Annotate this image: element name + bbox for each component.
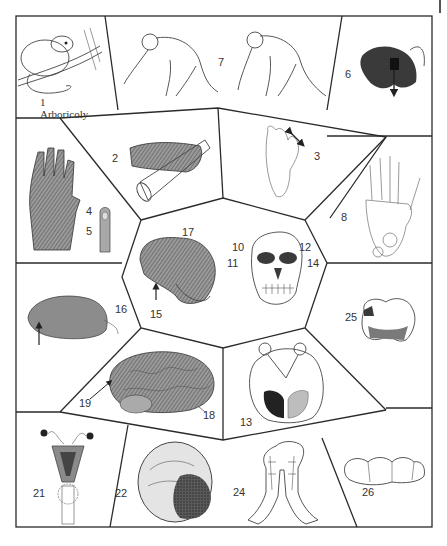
- panel-15-label: 15: [150, 308, 162, 320]
- divider-7-6: [327, 16, 342, 110]
- panel-22-label: 22: [115, 487, 127, 499]
- panel-6: 6: [345, 46, 424, 93]
- panel-21: 21: [33, 430, 94, 525]
- divider-24-26: [322, 438, 357, 527]
- panel-4-5: 4 5: [30, 148, 110, 252]
- divider-2-3: [218, 108, 223, 198]
- ape-right-illustration: [238, 32, 326, 96]
- ape-hand-illustration: [30, 148, 80, 250]
- fingertip-illustration: [100, 208, 110, 253]
- figure-mosaic: 1 Arboricoly 7 6 2: [0, 0, 447, 546]
- panel-16: 16: [28, 296, 127, 345]
- panel-24-label: 24: [233, 486, 245, 498]
- panel-18-19: 19 18: [79, 352, 215, 421]
- panel-10-label: 10: [232, 241, 244, 253]
- panel-16-label: 16: [115, 303, 127, 315]
- frontal-skull-illustration: [251, 232, 302, 304]
- panel-13-label: 13: [240, 416, 252, 428]
- panel-1-label: 1: [40, 96, 46, 108]
- panel-13: 13: [240, 343, 323, 428]
- panel-21-label: 21: [33, 487, 45, 499]
- panel-2-label: 2: [112, 152, 118, 164]
- panel-2: 2: [112, 140, 210, 204]
- panel-15-17: 17 15: [140, 226, 215, 320]
- divider-1-7: [105, 16, 118, 110]
- ring-right-lower: [305, 328, 386, 410]
- panel-1-sublabel: Arboricoly: [40, 108, 89, 120]
- panel-6-label: 6: [345, 68, 351, 80]
- molar-row-illustration: [345, 458, 425, 485]
- mandible-illustration: [248, 442, 318, 525]
- panel-19-label: 19: [79, 397, 91, 409]
- panel-14-label: 14: [307, 257, 319, 269]
- divider-21-22: [110, 425, 128, 527]
- panel-26: 26: [345, 458, 425, 499]
- panel-17-label: 17: [182, 226, 194, 238]
- hand-cylinder-illustration: [130, 140, 210, 204]
- baboon-illustration: [360, 46, 424, 93]
- small-brain-illustration: [28, 296, 118, 339]
- panel-10-14: 10 11 12 14: [227, 232, 319, 304]
- panel-26-label: 26: [362, 486, 374, 498]
- panel-25-label: 25: [345, 311, 357, 323]
- ape-foot-illustration: [266, 126, 302, 197]
- panel-1: 1 Arboricoly: [18, 28, 102, 120]
- placenta-illustration: [138, 442, 212, 522]
- panel-25: 25: [345, 299, 415, 341]
- ring-upper: [60, 108, 386, 218]
- panel-3: 3: [266, 126, 320, 197]
- panel-5-label: 5: [86, 225, 92, 237]
- arboreal-animal-illustration: [18, 28, 102, 93]
- hand-skeleton-illustration: [366, 156, 420, 257]
- panel-18-label: 18: [203, 409, 215, 421]
- lateral-skull-illustration: [140, 238, 215, 304]
- panel-22: 22: [115, 442, 212, 522]
- ape-left-illustration: [124, 34, 218, 96]
- panel-7: 7: [124, 32, 326, 96]
- visual-pathway-illustration: [250, 343, 324, 423]
- uterus-illustration: [41, 430, 94, 525]
- panel-24: 24: [233, 442, 318, 525]
- panel-11-label: 11: [227, 257, 238, 269]
- human-brain-illustration: [110, 352, 214, 413]
- panel-7-label: 7: [218, 56, 224, 68]
- panel-4-label: 4: [86, 205, 92, 217]
- panel-8-label: 8: [341, 211, 347, 223]
- double-arrow-icon: [290, 132, 302, 144]
- arrow-icon: [90, 382, 110, 399]
- panel-3-label: 3: [314, 150, 320, 162]
- molar-crown-illustration: [362, 299, 415, 341]
